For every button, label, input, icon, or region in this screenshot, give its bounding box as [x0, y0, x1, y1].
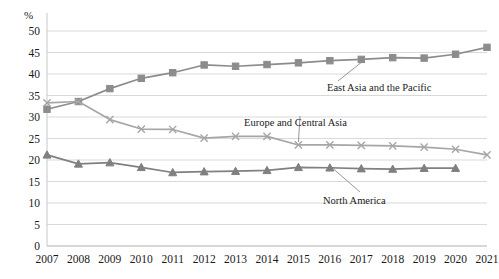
x-axis-tick-label: 2021 — [476, 253, 499, 265]
y-axis-tick-label: 10 — [16, 197, 40, 209]
y-axis-tick-label: 15 — [16, 176, 40, 188]
x-axis-tick-label: 2009 — [98, 253, 121, 265]
series-1 — [44, 44, 490, 112]
x-axis-tick-label: 2019 — [413, 253, 436, 265]
y-axis-tick-label: 5 — [16, 219, 40, 231]
y-axis-tick-label: 25 — [16, 133, 40, 145]
y-axis-tick-label: 45 — [16, 47, 40, 59]
x-axis-tick-label: 2010 — [130, 253, 153, 265]
y-axis-tick-label: 50 — [16, 25, 40, 37]
x-axis-tick-label: 2012 — [193, 253, 216, 265]
series-3 — [43, 151, 460, 176]
series-label-3: North America — [323, 195, 386, 206]
x-axis-tick-label: 2020 — [444, 253, 467, 265]
series-label-1: East Asia and the Pacific — [327, 82, 431, 93]
series-label-2: Europe and Central Asia — [244, 117, 347, 128]
x-axis-tick-label: 2018 — [381, 253, 404, 265]
y-axis-tick-label: 0 — [16, 240, 40, 252]
y-axis-tick-label: 35 — [16, 90, 40, 102]
x-axis-tick-label: 2008 — [67, 253, 90, 265]
x-axis-tick-label: 2007 — [36, 253, 59, 265]
y-axis-tick-label: 20 — [16, 154, 40, 166]
x-axis-tick-label: 2015 — [287, 253, 310, 265]
y-axis-tick-label: 30 — [16, 111, 40, 123]
series-2 — [43, 98, 490, 159]
x-axis-tick-label: 2016 — [318, 253, 341, 265]
x-axis-tick-label: 2013 — [224, 253, 247, 265]
x-axis-tick-label: 2017 — [350, 253, 373, 265]
x-axis-tick-label: 2014 — [256, 253, 279, 265]
x-axis-tick-label: 2011 — [161, 253, 184, 265]
y-axis-tick-label: 40 — [16, 68, 40, 80]
